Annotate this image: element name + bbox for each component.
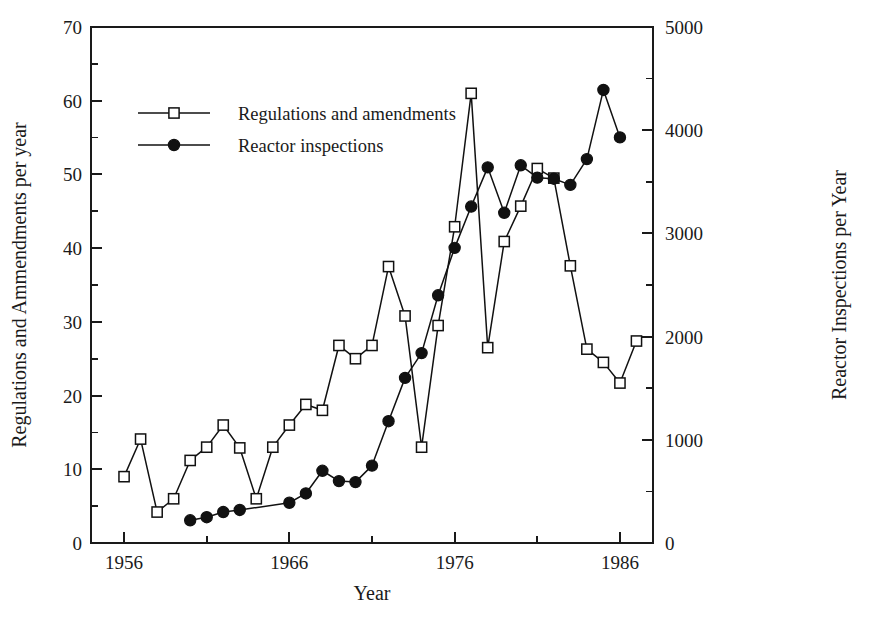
y2-tick-label: 2000 — [665, 327, 703, 348]
legend-swatch-marker — [168, 139, 179, 150]
data-point — [482, 162, 493, 173]
data-point — [334, 340, 344, 350]
chart-legend: Regulations and amendmentsReactor inspec… — [138, 104, 456, 156]
legend-item-label: Regulations and amendments — [238, 104, 456, 124]
y-tick-label: 20 — [63, 386, 82, 407]
x-tick-label: 1986 — [601, 552, 639, 573]
legend-swatch-marker — [169, 108, 179, 118]
data-point — [284, 497, 295, 508]
y2-tick-label: 1000 — [665, 430, 703, 451]
data-point — [581, 154, 592, 165]
data-point — [234, 504, 245, 515]
y2-tick-label: 0 — [665, 533, 675, 554]
y2-tick-label: 3000 — [665, 223, 703, 244]
data-point — [383, 416, 394, 427]
legend-item-label: Reactor inspections — [238, 136, 383, 156]
data-point — [218, 506, 229, 517]
y-tick-label: 0 — [73, 533, 83, 554]
data-point — [301, 399, 311, 409]
data-point — [350, 354, 360, 364]
data-point — [515, 160, 526, 171]
data-point — [350, 477, 361, 488]
data-point — [516, 201, 526, 211]
data-point — [598, 84, 609, 95]
data-point — [450, 222, 460, 232]
data-point — [366, 460, 377, 471]
x-tick-label: 1956 — [105, 552, 143, 573]
data-point — [416, 442, 426, 452]
data-point — [367, 340, 377, 350]
data-point — [235, 443, 245, 453]
data-point — [400, 311, 410, 321]
data-point — [433, 290, 444, 301]
data-point — [185, 455, 195, 465]
data-point — [218, 420, 228, 430]
data-point — [615, 378, 625, 388]
data-point — [449, 242, 460, 253]
data-point — [135, 434, 145, 444]
y-tick-label: 40 — [63, 238, 82, 259]
data-point — [202, 442, 212, 452]
chart-canvas: 0102030405060700100020003000400050001956… — [0, 0, 872, 624]
data-point — [416, 348, 427, 359]
data-point — [284, 420, 294, 430]
y-axis-title: Regulations and Ammendments per year — [8, 122, 31, 448]
data-point — [119, 472, 129, 482]
y-tick-label: 60 — [63, 91, 82, 112]
y-tick-label: 70 — [63, 17, 82, 38]
data-point — [565, 179, 576, 190]
data-point — [152, 507, 162, 517]
x-axis-title: Year — [354, 582, 391, 604]
data-point — [499, 207, 510, 218]
data-point — [399, 372, 410, 383]
data-point — [251, 494, 261, 504]
data-point — [268, 442, 278, 452]
data-point — [466, 88, 476, 98]
data-point — [483, 343, 493, 353]
data-point — [201, 512, 212, 523]
data-point — [532, 172, 543, 183]
chart-figure: 0102030405060700100020003000400050001956… — [0, 0, 872, 624]
data-point — [548, 173, 559, 184]
data-point — [333, 475, 344, 486]
data-point — [565, 261, 575, 271]
y-tick-label: 30 — [63, 312, 82, 333]
x-tick-label: 1966 — [270, 552, 308, 573]
data-point — [433, 320, 443, 330]
data-point — [614, 132, 625, 143]
y-tick-label: 50 — [63, 164, 82, 185]
y-tick-label: 10 — [63, 459, 82, 480]
x-tick-label: 1976 — [436, 552, 474, 573]
data-point — [466, 201, 477, 212]
data-point — [598, 357, 608, 367]
data-point — [499, 236, 509, 246]
data-point — [631, 336, 641, 346]
y2-tick-label: 4000 — [665, 120, 703, 141]
data-point — [582, 344, 592, 354]
data-point — [300, 488, 311, 499]
data-point — [169, 494, 179, 504]
data-point — [317, 465, 328, 476]
data-point — [317, 405, 327, 415]
data-point — [383, 261, 393, 271]
data-point — [185, 515, 196, 526]
y2-tick-label: 5000 — [665, 17, 703, 38]
y2-axis-title: Reactor Inspections per Year — [828, 170, 851, 400]
